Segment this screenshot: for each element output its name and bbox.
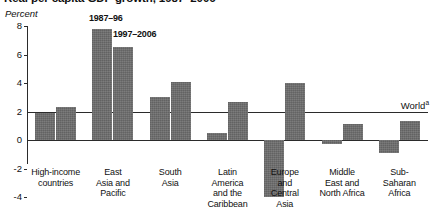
series-label-2: 1997–2006 (113, 29, 156, 39)
category-label-line: Latin (199, 167, 256, 178)
category-label-line: Saharan (371, 178, 428, 189)
category-label-line: East (84, 167, 141, 178)
page-title: Real per capita GDP growth, 1987–2006 (4, 0, 216, 4)
category-label-line: Asia (256, 199, 313, 210)
y-tick-mark (24, 55, 27, 56)
x-axis-category-label: High-incomecountries (27, 167, 84, 188)
category-label-line: and (256, 178, 313, 189)
category-label-line: Pacific (84, 188, 141, 199)
x-axis-category-label: LatinAmericaand theCaribbean (199, 167, 256, 209)
category-label-line: America (199, 178, 256, 189)
category-label-line: High-income (27, 167, 84, 178)
x-axis-category-label: SouthAsia (142, 167, 199, 188)
category-label-line: North Africa (313, 188, 370, 199)
series-label-1: 1987–96 (89, 13, 123, 23)
y-axis-line (27, 26, 28, 164)
category-label-line: South (142, 167, 199, 178)
bar (56, 107, 76, 140)
bar (92, 29, 112, 140)
zero-baseline (27, 140, 428, 141)
bar (400, 121, 420, 140)
y-tick-label: 0 (0, 135, 22, 145)
category-label-line: Africa (371, 188, 428, 199)
category-label-line: Central (256, 188, 313, 199)
x-axis-category-label: EuropeandCentralAsia (256, 167, 313, 209)
bar (343, 124, 363, 140)
y-tick-label: 8 (0, 21, 22, 31)
bar (113, 47, 133, 140)
y-tick-label: 2 (0, 107, 22, 117)
bar (207, 133, 227, 140)
x-axis-category-label: MiddleEast andNorth Africa (313, 167, 370, 199)
category-label-line: Europe (256, 167, 313, 178)
x-axis-category-label: Sub-SaharanAfrica (371, 167, 428, 199)
category-label-line: Sub- (371, 167, 428, 178)
x-axis-category-label: EastAsia andPacific (84, 167, 141, 199)
category-label-line: Asia (142, 178, 199, 189)
y-tick-label: 4 (0, 78, 22, 88)
y-axis-unit-label: Percent (5, 8, 38, 19)
world-reference-label: Worlda (401, 100, 429, 111)
y-tick-mark (24, 26, 27, 27)
category-label-line: Asia and (84, 178, 141, 189)
category-label-line: and the (199, 188, 256, 199)
bar (228, 102, 248, 140)
bar (35, 113, 55, 140)
y-tick-label: 6 (0, 50, 22, 60)
world-reference-text: World (401, 100, 426, 111)
category-label-line: Caribbean (199, 199, 256, 210)
category-label-line: Middle (313, 167, 370, 178)
bar (322, 140, 342, 144)
y-tick-mark (24, 197, 27, 198)
bar (171, 82, 191, 140)
world-footnote-marker: a (425, 98, 429, 105)
category-label-line: East and (313, 178, 370, 189)
category-label-line: countries (27, 178, 84, 189)
y-tick-label: -2 (0, 164, 22, 174)
bar (379, 140, 399, 153)
bar (285, 83, 305, 140)
y-tick-label: -4 (0, 192, 22, 202)
bar (150, 97, 170, 140)
figure-bar-chart: Real per capita GDP growth, 1987–2006 Pe… (0, 0, 432, 217)
y-tick-mark (24, 83, 27, 84)
